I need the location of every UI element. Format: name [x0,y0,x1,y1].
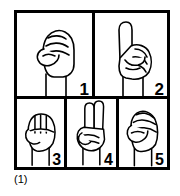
panel-5: 5 [116,99,167,167]
panel-row-top: 1 [17,13,167,96]
panel-number-4: 4 [104,152,113,167]
figure-root: 1 [0,0,180,196]
figure-caption: (1) [14,173,27,185]
panel-grid: 1 [14,10,170,170]
panel-number-2: 2 [155,81,164,96]
panel-1: 1 [17,13,92,96]
panel-number-5: 5 [155,152,164,167]
panel-3: 3 [17,99,64,167]
panel-number-3: 3 [52,152,61,167]
panel-number-1: 1 [80,81,89,96]
panel-2: 2 [92,13,167,96]
panel-row-bottom: 3 [17,96,167,167]
panel-4: 4 [64,99,116,167]
